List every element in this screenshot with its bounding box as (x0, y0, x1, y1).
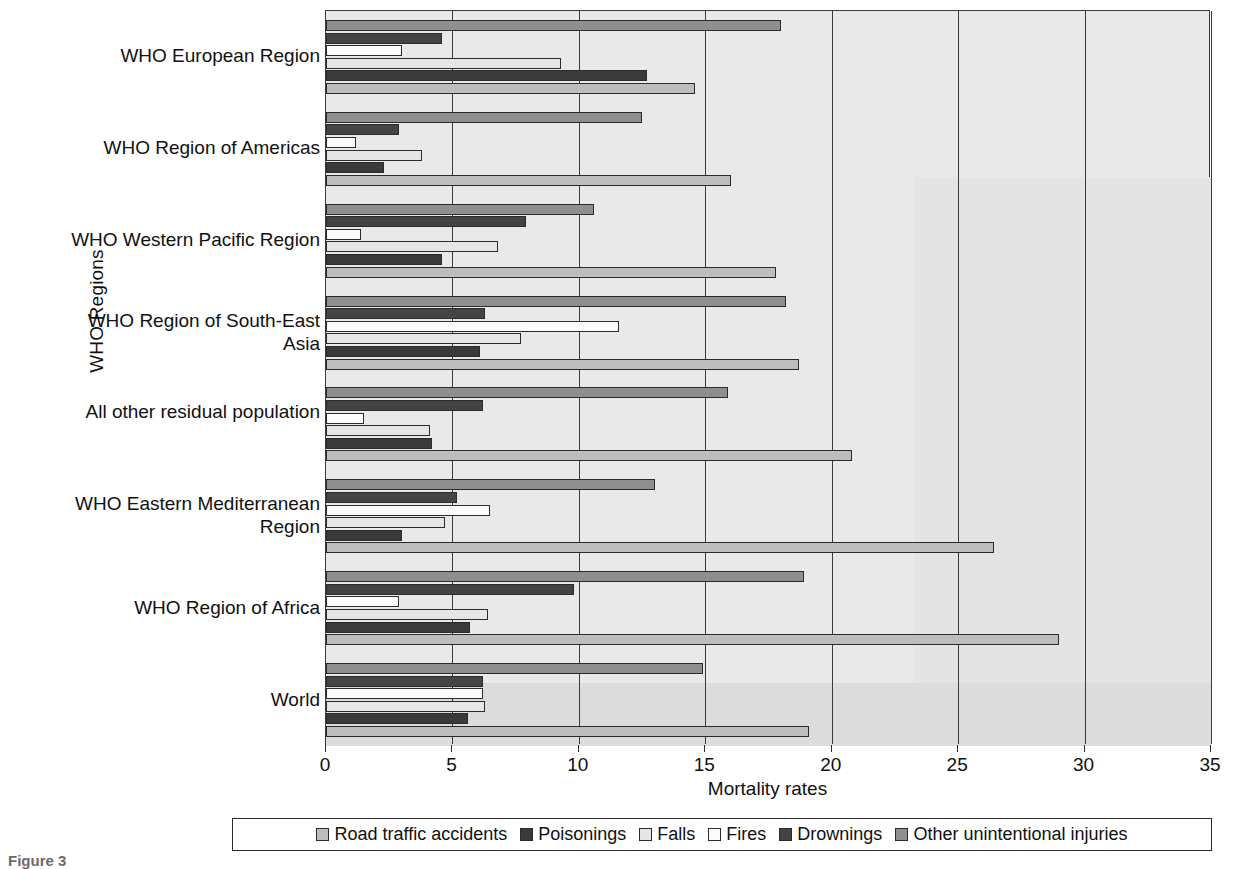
legend-label: Other unintentional injuries (913, 824, 1127, 845)
bar-group (326, 103, 1209, 195)
bar (326, 425, 430, 436)
legend-item[interactable]: Falls (639, 824, 695, 845)
bar (326, 726, 809, 737)
bar (326, 112, 642, 123)
bar (326, 676, 483, 687)
legend-label: Poisonings (538, 824, 626, 845)
legend-label: Road traffic accidents (334, 824, 507, 845)
bar (326, 254, 442, 265)
bar (326, 70, 647, 81)
bar (326, 400, 483, 411)
bar (326, 150, 422, 161)
category-label: WHO Western Pacific Region (20, 228, 320, 251)
bar (326, 229, 361, 240)
bar (326, 321, 619, 332)
gridline-35 (1211, 11, 1212, 744)
bar (326, 241, 498, 252)
category-label: World (20, 688, 320, 711)
category-label: WHO Region of Africa (20, 596, 320, 619)
bar (326, 596, 399, 607)
x-tick-label: 35 (1199, 754, 1220, 776)
category-label: WHO Eastern Mediterranean Region (65, 492, 320, 538)
bar (326, 571, 804, 582)
bar (326, 609, 488, 620)
legend-swatch-icon (520, 828, 533, 841)
legend-swatch-icon (639, 828, 652, 841)
bar-group (326, 379, 1209, 471)
bar (326, 45, 402, 56)
bar (326, 413, 364, 424)
bar (326, 175, 731, 186)
bar (326, 162, 384, 173)
bar (326, 542, 994, 553)
x-tick (1084, 745, 1085, 752)
legend-swatch-icon (895, 828, 908, 841)
legend-label: Drownings (797, 824, 882, 845)
bar (326, 346, 480, 357)
bar (326, 216, 526, 227)
bar (326, 267, 776, 278)
category-label: WHO Region of Americas (20, 136, 320, 159)
x-axis: 05101520253035 (325, 745, 1210, 775)
bar (326, 308, 485, 319)
bar-group (326, 195, 1209, 287)
bar (326, 124, 399, 135)
bar-group (326, 562, 1209, 654)
bar (326, 479, 655, 490)
x-tick (704, 745, 705, 752)
category-label: WHO Region of South-East Asia (65, 309, 320, 355)
bar (326, 333, 521, 344)
bar-group (326, 470, 1209, 562)
bar (326, 33, 442, 44)
bar-group (326, 654, 1209, 746)
bar (326, 20, 781, 31)
x-tick (578, 745, 579, 752)
bar (326, 622, 470, 633)
chart-legend: Road traffic accidentsPoisoningsFallsFir… (232, 818, 1212, 851)
category-label: WHO European Region (20, 44, 320, 67)
figure-caption: Figure 3 (8, 852, 66, 869)
legend-item[interactable]: Other unintentional injuries (895, 824, 1127, 845)
bar (326, 701, 485, 712)
bar (326, 713, 468, 724)
bar (326, 584, 574, 595)
bar (326, 688, 483, 699)
bar (326, 83, 695, 94)
legend-item[interactable]: Fires (708, 824, 766, 845)
x-tick-label: 30 (1073, 754, 1094, 776)
bar-group (326, 287, 1209, 379)
bar (326, 58, 561, 69)
x-tick (831, 745, 832, 752)
bar (326, 296, 786, 307)
x-tick-label: 15 (694, 754, 715, 776)
x-tick-label: 10 (567, 754, 588, 776)
y-axis-category-labels: WHO European RegionWHO Region of America… (20, 10, 320, 745)
x-tick-label: 5 (446, 754, 457, 776)
legend-item[interactable]: Poisonings (520, 824, 626, 845)
category-label: All other residual population (65, 400, 320, 423)
bar (326, 663, 703, 674)
bar (326, 387, 728, 398)
bar (326, 450, 852, 461)
legend-label: Fires (726, 824, 766, 845)
x-tick-label: 0 (320, 754, 331, 776)
bar (326, 137, 356, 148)
legend-swatch-icon (708, 828, 721, 841)
legend-label: Falls (657, 824, 695, 845)
bar (326, 438, 432, 449)
x-tick (957, 745, 958, 752)
bar (326, 634, 1059, 645)
legend-swatch-icon (316, 828, 329, 841)
legend-item[interactable]: Road traffic accidents (316, 824, 507, 845)
plot-area (325, 10, 1210, 745)
x-tick-label: 20 (820, 754, 841, 776)
legend-item[interactable]: Drownings (779, 824, 882, 845)
x-tick (451, 745, 452, 752)
x-tick (1210, 745, 1211, 752)
bar (326, 492, 457, 503)
x-axis-title: Mortality rates (325, 778, 1210, 800)
x-tick (325, 745, 326, 752)
bar (326, 359, 799, 370)
bar (326, 530, 402, 541)
bar (326, 517, 445, 528)
